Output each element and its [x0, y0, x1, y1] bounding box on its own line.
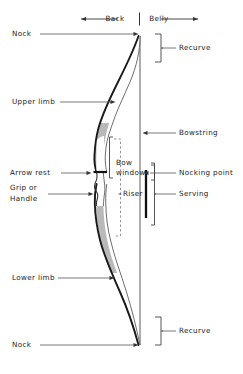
axis-label-belly: Belly [142, 14, 176, 24]
label-nock-bottom: Nock [12, 340, 31, 350]
label-upper-limb: Upper limb [12, 97, 55, 107]
label-riser: Riser [123, 189, 143, 199]
bracket-recurve-top [155, 34, 163, 62]
axis-label-back: Back [98, 14, 132, 24]
label-serving: Serving [179, 189, 209, 199]
label-nocking-point: Nocking point [179, 168, 233, 178]
label-grip-or-handle-line1: Grip or [10, 183, 37, 193]
label-arrow-rest: Arrow rest [10, 168, 50, 178]
label-lower-limb: Lower limb [12, 273, 55, 283]
label-bowstring: Bowstring [179, 128, 218, 138]
bracket-serving [151, 163, 156, 225]
bracket-recurve-bottom [155, 317, 163, 345]
label-recurve-bottom: Recurve [179, 326, 211, 336]
bracket-nocking-point [151, 165, 155, 180]
label-grip-or-handle-line2: Handle [10, 194, 37, 204]
label-bow-window-line1: Bow [116, 158, 132, 168]
bracket-riser-dashed [114, 139, 121, 236]
bracket-bow-window [110, 137, 114, 178]
bow-anatomy-diagram: Back Belly Nock Upper limb Arrow rest Gr… [0, 0, 243, 374]
leader-lines-right [145, 48, 176, 331]
label-nock-top: Nock [12, 29, 31, 39]
label-bow-window-line2: window [116, 168, 145, 178]
label-recurve-top: Recurve [179, 43, 211, 53]
